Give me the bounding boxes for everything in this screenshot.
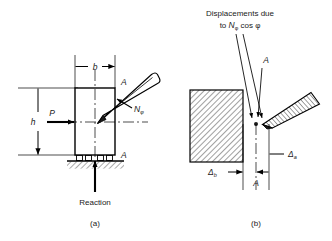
roller-2	[86, 156, 92, 161]
label-reaction: Reaction	[79, 198, 111, 207]
label-N-phi: Nφ	[134, 104, 144, 115]
point-label-A-top: A	[262, 55, 269, 65]
roller-1	[77, 156, 83, 161]
annotation-line-2: to Nφ cos φ	[220, 20, 261, 31]
displaced-block	[190, 90, 243, 162]
panel-a: b h P	[18, 55, 160, 228]
strut-b-body	[263, 93, 320, 129]
caption-b: (b)	[251, 219, 261, 228]
caption-a: (a)	[90, 219, 100, 228]
roller-supports	[77, 156, 113, 161]
label-delta-b: Δb	[207, 167, 217, 178]
force-P: P	[47, 108, 74, 122]
point-label-A-bottom: A	[252, 178, 259, 188]
dimension-delta-b: Δb	[207, 167, 243, 178]
section-label-A-top: A	[120, 77, 127, 87]
label-h: h	[31, 117, 36, 127]
technical-diagram: b h P	[0, 0, 332, 241]
label-N-phi-group: Nφ	[117, 99, 144, 115]
panel-b: Displacements due to Nφ cos φ A	[190, 9, 320, 228]
section-label-A-bottom: A	[120, 150, 127, 160]
dimension-delta-a: Δa	[270, 149, 297, 160]
label-delta-a: Δa	[287, 149, 297, 160]
label-P: P	[49, 108, 55, 118]
roller-3	[98, 156, 104, 161]
figure-canvas: b h P	[0, 0, 332, 241]
inclined-strut-b	[263, 93, 320, 130]
annotation-line-1: Displacements due	[206, 9, 275, 18]
roller-4	[107, 156, 113, 161]
